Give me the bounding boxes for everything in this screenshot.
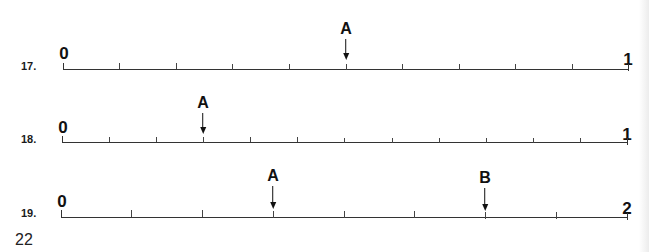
tick bbox=[439, 138, 440, 143]
arrow-head-icon bbox=[482, 204, 488, 211]
tick bbox=[485, 212, 486, 219]
end-tick bbox=[628, 64, 629, 71]
problem-number: 18. bbox=[21, 133, 36, 145]
tick bbox=[344, 211, 345, 218]
tick bbox=[289, 64, 290, 70]
start-label: 0 bbox=[58, 118, 67, 138]
start-tick bbox=[62, 136, 63, 143]
tick bbox=[176, 63, 177, 69]
tick bbox=[232, 64, 233, 70]
tick bbox=[273, 211, 274, 218]
page-number: 22 bbox=[15, 231, 33, 249]
arrow-head-icon bbox=[270, 202, 276, 209]
marker-label: B bbox=[479, 170, 491, 186]
tick bbox=[414, 211, 415, 218]
tick bbox=[533, 138, 534, 143]
down-arrow-icon bbox=[346, 39, 347, 53]
end-tick bbox=[627, 213, 628, 220]
down-arrow-icon bbox=[203, 113, 204, 127]
tick bbox=[297, 137, 298, 142]
tick bbox=[131, 210, 132, 217]
tick bbox=[392, 138, 393, 143]
start-label: 0 bbox=[59, 44, 68, 64]
marker-a: A bbox=[197, 95, 209, 134]
tick bbox=[572, 64, 573, 70]
start-label: 0 bbox=[57, 192, 66, 212]
arrow-head-icon bbox=[343, 53, 349, 60]
tick bbox=[156, 137, 157, 142]
tick bbox=[344, 138, 345, 143]
arrow-head-icon bbox=[200, 127, 206, 134]
problem-number: 17. bbox=[21, 60, 36, 72]
tick bbox=[402, 64, 403, 70]
page-edge-shadow bbox=[639, 0, 649, 252]
number-line-axis bbox=[62, 142, 628, 143]
tick bbox=[486, 138, 487, 143]
tick bbox=[250, 137, 251, 142]
marker-a: A bbox=[340, 21, 352, 60]
marker-a: A bbox=[267, 168, 279, 209]
problem-number: 19. bbox=[21, 207, 36, 219]
start-tick bbox=[63, 63, 64, 70]
end-tick bbox=[627, 138, 628, 145]
marker-label: A bbox=[340, 21, 352, 37]
marker-b: B bbox=[479, 170, 491, 211]
tick bbox=[515, 64, 516, 70]
tick bbox=[119, 63, 120, 69]
down-arrow-icon bbox=[485, 188, 486, 204]
tick bbox=[346, 64, 347, 70]
tick bbox=[556, 212, 557, 219]
marker-label: A bbox=[267, 168, 279, 184]
tick bbox=[203, 137, 204, 143]
down-arrow-icon bbox=[273, 186, 274, 202]
tick bbox=[580, 138, 581, 143]
start-tick bbox=[61, 210, 62, 218]
marker-label: A bbox=[197, 95, 209, 111]
tick bbox=[459, 64, 460, 70]
tick bbox=[109, 137, 110, 142]
tick bbox=[202, 210, 203, 217]
